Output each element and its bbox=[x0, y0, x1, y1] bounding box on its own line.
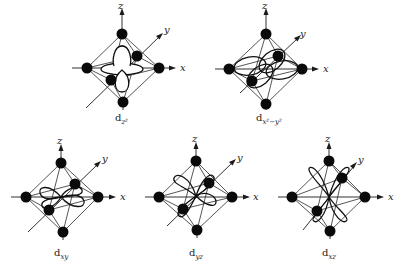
y-axis-label: y bbox=[101, 153, 108, 164]
ligand-atom-right bbox=[154, 63, 165, 74]
ligand-atom-left bbox=[287, 192, 298, 203]
z-axis-label: z bbox=[324, 133, 331, 144]
ligand-atom-front bbox=[106, 75, 117, 86]
z-axis-label: z bbox=[117, 0, 124, 11]
y-axis-arrow-icon bbox=[350, 162, 357, 169]
ligand-atom-front bbox=[312, 206, 323, 217]
orbital-label-dyz: dyz bbox=[189, 247, 203, 261]
orbital-label-dx2-y2: dx²−y² bbox=[256, 112, 282, 126]
ligand-atom-front bbox=[247, 76, 258, 87]
ligand-atom-bottom bbox=[58, 227, 69, 238]
ligand-atom-back bbox=[70, 179, 81, 190]
y-axis bbox=[28, 164, 98, 232]
z-axis-label: z bbox=[261, 0, 268, 11]
x-axis-arrow-icon bbox=[243, 195, 250, 200]
orbital-label-dxy: dxy bbox=[54, 247, 69, 261]
ligand-atom-top bbox=[191, 156, 202, 167]
ligand-atom-back bbox=[337, 173, 348, 184]
ligand-atom-left bbox=[154, 192, 165, 203]
panel-dz2: x z y bbox=[72, 0, 186, 126]
x-axis-label: x bbox=[388, 191, 394, 202]
z-axis-label: z bbox=[56, 135, 63, 146]
ligand-atom-left bbox=[82, 63, 93, 74]
y-axis-label: y bbox=[163, 24, 170, 35]
ligand-atom-right bbox=[360, 192, 371, 203]
y-axis-label: y bbox=[299, 28, 306, 39]
x-axis-arrow-icon bbox=[312, 67, 319, 72]
ligand-atom-bottom bbox=[118, 97, 129, 108]
ligand-atom-top bbox=[261, 29, 272, 40]
panel-dxz: x z y dxz bbox=[278, 133, 394, 261]
panel-dyz: x z y dyz bbox=[145, 133, 259, 261]
orbital-label-dz2: dz² bbox=[115, 112, 128, 126]
ligand-atom-front bbox=[178, 204, 189, 215]
x-axis-arrow-icon bbox=[109, 195, 116, 200]
panel-dxy: x z y dxy bbox=[11, 135, 126, 261]
ligand-atom-back bbox=[204, 178, 215, 189]
y-axis-label: y bbox=[236, 152, 243, 163]
ligand-atom-top bbox=[56, 158, 67, 169]
x-axis-arrow-icon bbox=[169, 66, 176, 71]
x-axis-label: x bbox=[253, 191, 259, 202]
ligand-atom-back bbox=[132, 51, 143, 62]
panel-dx2-y2: x z y dx²−y² bbox=[215, 0, 329, 126]
ligand-atom-bottom bbox=[192, 225, 203, 236]
ligand-atom-front bbox=[44, 205, 55, 216]
ligand-atom-bottom bbox=[325, 226, 336, 237]
x-axis-label: x bbox=[120, 191, 126, 202]
x-axis-label: x bbox=[180, 62, 186, 73]
ligand-atom-top bbox=[324, 156, 335, 167]
ligand-atom-right bbox=[93, 192, 104, 203]
y-axis-label: y bbox=[357, 154, 364, 165]
orbital-label-dxz: dxz bbox=[322, 247, 336, 261]
d-orbitals-diagram: x z y bbox=[0, 0, 408, 273]
ligand-atom-left bbox=[224, 64, 235, 75]
x-axis-arrow-icon bbox=[377, 195, 384, 200]
ligand-atom-left bbox=[21, 192, 32, 203]
ligand-atom-right bbox=[227, 192, 238, 203]
x-axis-label: x bbox=[323, 63, 329, 74]
z-axis-label: z bbox=[191, 133, 198, 144]
ligand-atom-back bbox=[273, 51, 284, 62]
ligand-atom-right bbox=[297, 64, 308, 75]
ligand-atom-top bbox=[117, 29, 128, 40]
ligand-atom-bottom bbox=[261, 99, 272, 110]
